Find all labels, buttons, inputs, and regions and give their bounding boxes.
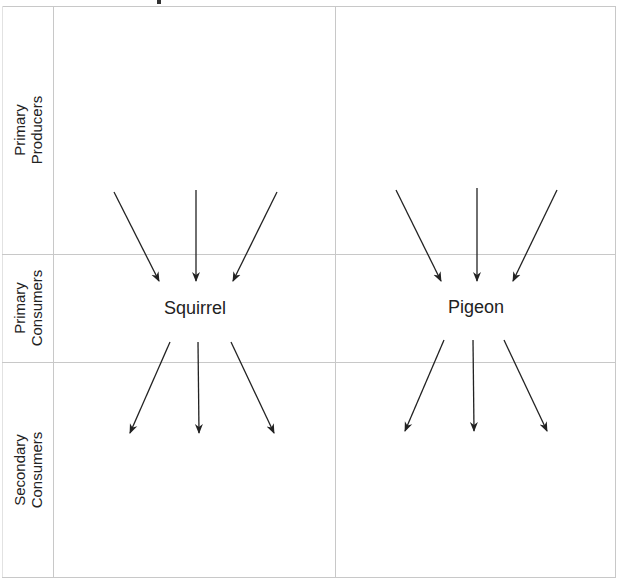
arrow-pigeon-out-left [405,340,444,431]
arrow-pigeon-in-right [513,190,557,281]
arrow-squirrel-in-right [233,192,277,281]
arrow-squirrel-out-left [130,342,170,433]
arrow-squirrel-out-middle [198,342,199,433]
arrow-squirrel-in-left [114,192,159,281]
arrows-layer [0,0,618,580]
arrow-pigeon-out-middle [473,340,474,431]
arrow-pigeon-in-left [396,190,441,281]
arrow-squirrel-out-right [231,342,274,433]
arrow-pigeon-out-right [504,340,547,431]
